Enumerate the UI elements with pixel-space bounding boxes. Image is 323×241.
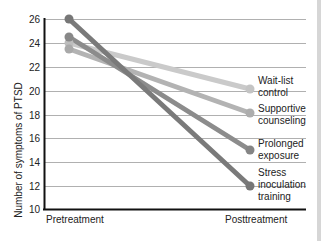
- x-label-posttreatment: Posttreatment: [225, 214, 287, 225]
- label-stress-line2: inoculation: [258, 179, 306, 190]
- x-label-pretreatment: Pretreatment: [46, 214, 104, 225]
- marker-prolonged-pre: [65, 33, 74, 42]
- label-stress-line1: Stress: [258, 167, 286, 178]
- label-wait-list-line1: Wait-list: [258, 75, 293, 86]
- y-tick-24: 24: [29, 38, 41, 49]
- label-prolonged-line1: Prolonged: [258, 138, 304, 149]
- marker-stress-post: [246, 182, 255, 191]
- label-wait-list-line2: control: [258, 87, 288, 98]
- y-tick-10: 10: [29, 204, 41, 215]
- series-lines: [69, 19, 250, 186]
- label-stress-line3: training: [258, 191, 291, 202]
- y-tick-20: 20: [29, 86, 41, 97]
- y-tick-12: 12: [29, 181, 41, 192]
- y-axis-label: Number of symptoms of PTSD: [13, 82, 24, 218]
- label-supportive-line2: counseling: [258, 115, 306, 126]
- marker-supportive-post: [246, 109, 255, 118]
- label-prolonged-line2: exposure: [258, 150, 300, 161]
- y-tick-14: 14: [29, 157, 41, 168]
- label-supportive-line1: Supportive: [258, 103, 306, 114]
- y-tick-22: 22: [29, 62, 41, 73]
- y-tick-26: 26: [29, 14, 41, 25]
- marker-prolonged-post: [246, 146, 255, 155]
- y-tick-labels: 26 24 22 20 18 16 14 12 10: [29, 14, 41, 215]
- marker-supportive-pre: [65, 45, 74, 54]
- line-prolonged-exposure: [69, 37, 250, 150]
- ptsd-line-chart: 26 24 22 20 18 16 14 12 10 Number of sym…: [0, 0, 323, 241]
- series-labels: Wait-list control Supportive counseling …: [258, 75, 306, 202]
- marker-wait-list-post: [246, 85, 255, 94]
- y-tick-16: 16: [29, 133, 41, 144]
- marker-stress-pre: [65, 15, 74, 24]
- y-tick-18: 18: [29, 110, 41, 121]
